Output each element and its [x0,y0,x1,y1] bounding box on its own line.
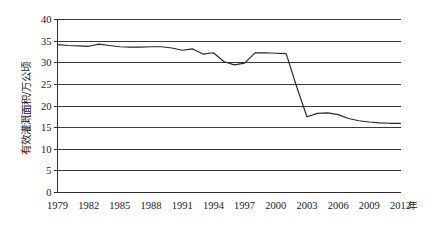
chart-svg: 0510152025303540 19791982198519881991199… [0,0,447,232]
y-tick-label: 35 [41,36,52,47]
y-tick-label: 0 [46,187,51,198]
plot-area: 0510152025303540 19791982198519881991199… [0,0,447,232]
gridlines [58,20,401,171]
x-tick-label: 1994 [203,200,225,211]
x-axis-unit-label: 年 [408,200,418,211]
y-tick-label: 40 [41,14,52,25]
y-tick-label: 30 [41,57,52,68]
y-tick-labels: 0510152025303540 [41,14,52,198]
data-series [58,44,401,123]
x-tick-label: 1985 [109,200,130,211]
x-tick-label: 1988 [141,200,162,211]
y-tick-label: 5 [46,165,51,176]
x-axis-unit: 年 [408,200,418,211]
x-tick-label: 1979 [47,200,68,211]
y-tick-label: 10 [41,144,52,155]
chart-figure: 有效灌溉面积/万公顷 0510152025303540 197919821985… [0,0,447,232]
y-tick-label: 15 [41,122,52,133]
x-tick-label: 2003 [296,200,317,211]
x-tick-labels: 1979198219851988199119941997200020032006… [47,200,411,211]
series-line [58,44,401,123]
x-tick-label: 1991 [172,200,193,211]
x-tick-label: 2009 [359,200,380,211]
x-tick-label: 1982 [78,200,99,211]
y-tick-label: 20 [41,101,52,112]
x-tick-label: 2000 [265,200,286,211]
x-tick-label: 1997 [234,200,255,211]
y-tick-label: 25 [41,79,52,90]
x-tick-label: 2006 [328,200,349,211]
